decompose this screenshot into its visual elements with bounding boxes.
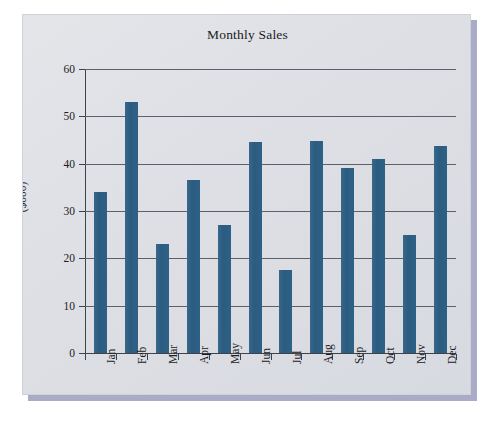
gridline <box>85 116 456 117</box>
chart-title: Monthly Sales <box>23 27 471 43</box>
y-axis-tick <box>79 258 85 259</box>
x-axis-tick-label: Mar <box>167 345 179 364</box>
x-axis-tick-label: Aug <box>322 344 334 364</box>
y-axis-tick-label: 20 <box>31 252 75 264</box>
x-axis-tick-label: Jul <box>291 351 303 364</box>
bar <box>310 141 323 353</box>
x-axis-tick-label: May <box>229 343 241 364</box>
y-axis-tick <box>79 211 85 212</box>
gridline <box>85 258 456 259</box>
x-axis-tick-label: Jan <box>105 349 117 364</box>
gridline <box>85 306 456 307</box>
y-axis-title: ($000) <box>22 182 28 213</box>
x-axis-tick-label: Nov <box>415 344 427 364</box>
chart-panel: Monthly Sales ($000) 0102030405060 JanFe… <box>22 14 471 395</box>
bar <box>434 146 447 353</box>
gridline <box>85 69 456 70</box>
y-axis-tick-label: 60 <box>31 63 75 75</box>
y-axis-tick-label: 10 <box>31 300 75 312</box>
x-axis-tick-label: Jun <box>260 348 272 364</box>
x-axis-tick-label: Apr <box>198 346 210 364</box>
y-axis-tick-label: 50 <box>31 110 75 122</box>
bar <box>341 168 354 353</box>
x-axis-tick-label: Dec <box>446 345 458 364</box>
bar <box>249 142 262 353</box>
bar <box>125 102 138 353</box>
bar <box>156 244 169 353</box>
bar <box>94 192 107 353</box>
gridline <box>85 211 456 212</box>
y-axis-tick-label: 0 <box>31 347 75 359</box>
x-axis-tick-label: Sep <box>353 347 365 364</box>
y-axis-tick-label: 40 <box>31 158 75 170</box>
y-axis-tick <box>79 69 85 70</box>
y-axis-tick <box>79 116 85 117</box>
x-axis-tick-label: Feb <box>136 347 148 364</box>
bar <box>372 159 385 353</box>
x-axis-tick-label: Oct <box>384 347 396 364</box>
chart-figure: Monthly Sales ($000) 0102030405060 JanFe… <box>0 0 495 422</box>
gridline <box>85 164 456 165</box>
y-axis-tick-label: 30 <box>31 205 75 217</box>
y-axis-tick <box>79 164 85 165</box>
y-axis-tick <box>79 306 85 307</box>
plot-area <box>85 69 456 353</box>
bar <box>187 180 200 353</box>
bar <box>403 235 416 353</box>
bar <box>279 270 292 353</box>
x-axis-tick <box>85 354 86 360</box>
bar <box>218 225 231 353</box>
